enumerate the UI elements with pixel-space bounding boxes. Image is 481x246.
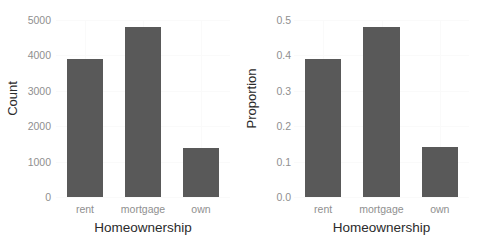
bar-slot [411, 20, 469, 197]
x-axis-title-proportion: Homeownership [294, 220, 469, 235]
x-tick-label: rent [294, 203, 352, 217]
y-tick-label: 0 [45, 191, 51, 203]
y-tick-label: 0.0 [276, 191, 291, 203]
plot-area-proportion [294, 20, 469, 197]
y-axis-title-proportion-text: Proportion [245, 69, 260, 129]
x-tick-label: own [172, 203, 230, 217]
bar-mortgage [363, 27, 399, 197]
y-tick-label: 0.1 [276, 156, 291, 168]
y-tick-label: 0.2 [276, 120, 291, 132]
y-tick-label: 0.5 [276, 14, 291, 26]
bar-slot [352, 20, 410, 197]
y-axis-title-proportion: Proportion [240, 0, 264, 197]
figure: Count 010002000300040005000 rentmortgage… [0, 0, 481, 246]
bar-rent [305, 59, 341, 197]
bar-mortgage [125, 27, 161, 197]
bar-slot [56, 20, 114, 197]
x-tick-label: mortgage [352, 203, 410, 217]
bar-own [422, 147, 458, 197]
bar-group-count [56, 20, 230, 197]
plot-area-count [56, 20, 230, 197]
y-tick-label: 5000 [28, 14, 51, 26]
y-axis-title-count: Count [0, 0, 24, 197]
bar-group-proportion [294, 20, 469, 197]
y-tick-label: 1000 [28, 156, 51, 168]
x-axis-tick-labels-count: rentmortgageown [56, 203, 230, 217]
gridline-horizontal [294, 197, 469, 198]
y-tick-label: 2000 [28, 120, 51, 132]
bar-own [183, 148, 219, 197]
bar-slot [294, 20, 352, 197]
x-axis-title-count: Homeownership [56, 220, 230, 235]
x-axis-tick-labels-proportion: rentmortgageown [294, 203, 469, 217]
y-tick-label: 4000 [28, 49, 51, 61]
chart-panel-proportion: Proportion 0.00.10.20.30.40.5 rentmortga… [240, 0, 481, 246]
y-tick-label: 0.3 [276, 85, 291, 97]
chart-panel-count: Count 010002000300040005000 rentmortgage… [0, 0, 240, 246]
y-axis-tick-labels-count: 010002000300040005000 [22, 0, 54, 246]
y-axis-title-count-text: Count [5, 81, 20, 116]
y-tick-label: 3000 [28, 85, 51, 97]
x-tick-label: own [411, 203, 469, 217]
y-axis-tick-labels-proportion: 0.00.10.20.30.40.5 [262, 0, 294, 246]
bar-slot [114, 20, 172, 197]
x-tick-label: mortgage [114, 203, 172, 217]
bar-slot [172, 20, 230, 197]
y-tick-label: 0.4 [276, 49, 291, 61]
x-tick-label: rent [56, 203, 114, 217]
gridline-horizontal [56, 197, 230, 198]
bar-rent [67, 59, 103, 197]
